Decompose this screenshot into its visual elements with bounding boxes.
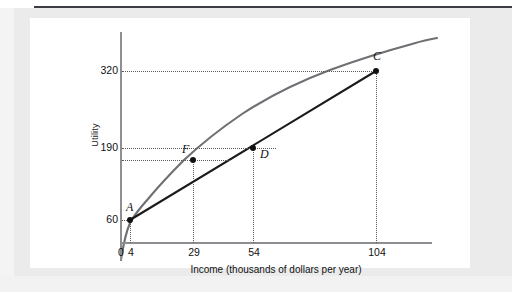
- y-tick-label-320: 320: [74, 64, 118, 76]
- gridline-v-104: [376, 71, 377, 243]
- chart-canvas: A F D C 320 190 60 0 4 29 54 104 Utility…: [30, 18, 470, 268]
- x-tick-label-4: 4: [116, 246, 146, 258]
- gridline-v-4: [130, 220, 131, 243]
- x-axis-title: Income (thousands of dollars per year): [120, 264, 432, 275]
- data-point-d: [250, 145, 256, 151]
- x-tick-label-29: 29: [179, 246, 209, 258]
- gridline-v-29: [193, 160, 194, 243]
- data-point-f: [190, 157, 196, 163]
- data-point-c: [373, 68, 379, 74]
- x-axis-line: [120, 242, 432, 244]
- gridline-h-320: [122, 71, 376, 72]
- y-axis-title: Utility: [90, 100, 100, 170]
- gridline-v-54: [253, 148, 254, 243]
- data-point-label-a: A: [126, 200, 133, 215]
- page-frame-left-gutter: [0, 8, 14, 292]
- figure-screenshot: A F D C 320 190 60 0 4 29 54 104 Utility…: [0, 0, 512, 292]
- data-point-label-d: D: [260, 147, 269, 162]
- data-point-a: [127, 217, 133, 223]
- x-tick-label-104: 104: [362, 246, 392, 258]
- y-tick-label-60: 60: [74, 213, 118, 225]
- data-point-label-c: C: [373, 49, 381, 64]
- data-point-label-f: F: [182, 142, 189, 157]
- page-frame-bottom-gutter: [0, 276, 512, 292]
- gridline-h-170: [122, 160, 230, 161]
- y-axis-line: [120, 32, 122, 260]
- x-tick-label-54: 54: [239, 246, 269, 258]
